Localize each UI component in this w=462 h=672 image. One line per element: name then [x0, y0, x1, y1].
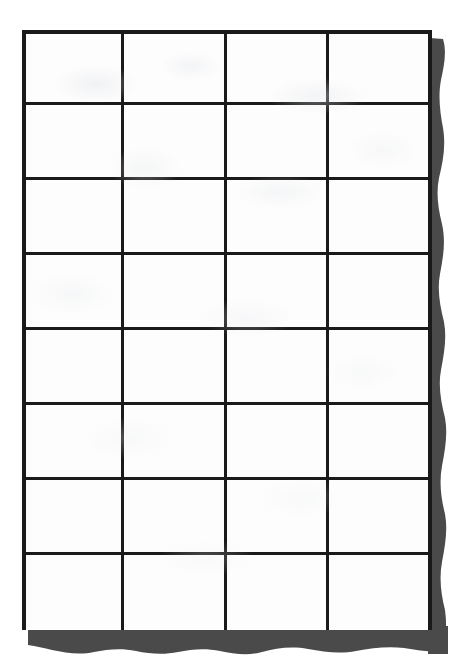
table-cell-r8-c4[interactable] — [329, 555, 428, 630]
table-row — [26, 405, 428, 480]
table-cell-r4-c2[interactable] — [124, 255, 227, 330]
table-cell-r6-c4[interactable] — [329, 405, 428, 480]
table-cell-r7-c3[interactable] — [227, 480, 329, 555]
table-cell-r1-c1[interactable] — [26, 34, 124, 105]
table-cell-r5-c2[interactable] — [124, 330, 227, 405]
table-row — [26, 105, 428, 180]
table-cell-r7-c2[interactable] — [124, 480, 227, 555]
table-cell-r8-c1[interactable] — [26, 555, 124, 630]
table-cell-r1-c3[interactable] — [227, 34, 329, 105]
table-cell-r5-c1[interactable] — [26, 330, 124, 405]
table-cell-r3-c1[interactable] — [26, 180, 124, 255]
table-cell-r8-c3[interactable] — [227, 555, 329, 630]
table-cell-r4-c3[interactable] — [227, 255, 329, 330]
table-cell-r5-c4[interactable] — [329, 330, 428, 405]
table-cell-r6-c3[interactable] — [227, 405, 329, 480]
table-cell-r1-c2[interactable] — [124, 34, 227, 105]
table-row — [26, 255, 428, 330]
scanned-page — [0, 0, 462, 672]
table-row — [26, 180, 428, 255]
table-cell-r7-c1[interactable] — [26, 480, 124, 555]
table-cell-r2-c1[interactable] — [26, 105, 124, 180]
table-cell-r2-c3[interactable] — [227, 105, 329, 180]
table-row — [26, 555, 428, 630]
table-cell-r4-c4[interactable] — [329, 255, 428, 330]
table-cell-r2-c4[interactable] — [329, 105, 428, 180]
blank-grid-table — [22, 30, 432, 630]
table-cell-r5-c3[interactable] — [227, 330, 329, 405]
table-row — [26, 34, 428, 105]
table-cell-r7-c4[interactable] — [329, 480, 428, 555]
table-row — [26, 480, 428, 555]
table-cell-r3-c3[interactable] — [227, 180, 329, 255]
table-cell-r8-c2[interactable] — [124, 555, 227, 630]
table-cell-r3-c4[interactable] — [329, 180, 428, 255]
table-row — [26, 330, 428, 405]
table-cell-r2-c2[interactable] — [124, 105, 227, 180]
table-cell-r4-c1[interactable] — [26, 255, 124, 330]
table-cell-r6-c2[interactable] — [124, 405, 227, 480]
table-cell-r3-c2[interactable] — [124, 180, 227, 255]
table-cell-r6-c1[interactable] — [26, 405, 124, 480]
table-cell-r1-c4[interactable] — [329, 34, 428, 105]
